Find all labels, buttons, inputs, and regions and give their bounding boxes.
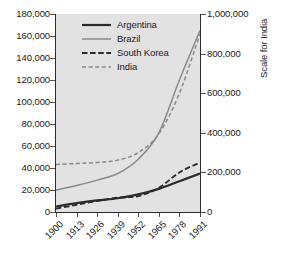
x-axis-tick	[118, 213, 119, 217]
y-axis-right-title: Scale for India	[258, 19, 269, 78]
y-axis-left-tick	[50, 14, 55, 15]
x-axis-tick	[179, 213, 180, 217]
legend-line-swatch	[82, 20, 111, 30]
y-axis-left-tick	[50, 212, 55, 213]
x-axis-tick	[97, 213, 98, 217]
x-axis-tick	[200, 213, 201, 217]
y-axis-left-tick	[50, 102, 55, 103]
y-axis-left-tick-label: 60,000	[0, 141, 50, 151]
y-axis-right-title-text: Scale for India	[258, 19, 269, 78]
y-axis-left-tick-label: 80,000	[0, 119, 50, 129]
y-axis-right-tick	[201, 93, 206, 94]
legend-item-south-korea: South Korea	[82, 46, 169, 60]
legend-item-label: India	[117, 62, 137, 72]
y-axis-left-tick-label: 0	[0, 207, 50, 217]
y-axis-right-tick-label: 0	[207, 207, 212, 217]
x-axis-tick	[138, 213, 139, 217]
y-axis-right-tick-label: 600,000	[207, 88, 241, 98]
y-axis-left-tick-label: 160,000	[0, 31, 50, 41]
y-axis-right-tick	[201, 133, 206, 134]
y-axis-right-tick	[201, 212, 206, 213]
y-axis-left-tick	[50, 146, 55, 147]
y-axis-right-line	[200, 14, 201, 213]
y-axis-left-tick	[50, 190, 55, 191]
legend-line-swatch	[82, 48, 111, 58]
series-line-argentina	[56, 174, 200, 207]
legend-item-india: India	[82, 60, 169, 74]
y-axis-left-tick	[50, 58, 55, 59]
legend-item-label: Brazil	[117, 34, 140, 44]
y-axis-left-tick	[50, 80, 55, 81]
y-axis-left-tick-label: 100,000	[0, 97, 50, 107]
y-axis-left-tick	[50, 124, 55, 125]
y-axis-right-tick-label: 400,000	[207, 128, 241, 138]
y-axis-left-tick	[50, 168, 55, 169]
x-axis-tick-label: 1900	[38, 219, 65, 246]
legend-line-swatch	[82, 34, 111, 44]
legend-item-label: Argentina	[117, 20, 157, 30]
x-axis-tick	[77, 213, 78, 217]
x-axis-tick	[56, 213, 57, 217]
y-axis-left-tick	[50, 36, 55, 37]
y-axis-right-tick-label: 800,000	[207, 49, 241, 59]
y-axis-left-tick-label: 40,000	[0, 163, 50, 173]
y-axis-left-tick-label: 120,000	[0, 75, 50, 85]
y-axis-left-tick-label: 20,000	[0, 185, 50, 195]
y-axis-right-tick	[201, 14, 206, 15]
legend-item-brazil: Brazil	[82, 32, 169, 46]
legend-line-swatch	[82, 62, 111, 72]
chart-container: 020,00040,00060,00080,000100,000120,0001…	[0, 0, 292, 257]
y-axis-right-tick	[201, 54, 206, 55]
legend-item-argentina: Argentina	[82, 18, 169, 32]
y-axis-right-tick-label: 200,000	[207, 167, 241, 177]
y-axis-right-tick	[201, 172, 206, 173]
x-axis-tick-label: 1991	[182, 219, 209, 246]
chart-legend: ArgentinaBrazilSouth KoreaIndia	[82, 18, 169, 74]
x-axis-tick	[159, 213, 160, 217]
y-axis-left-tick-label: 180,000	[0, 9, 50, 19]
legend-item-label: South Korea	[117, 48, 169, 58]
y-axis-right-tick-label: 1,000,000	[207, 9, 248, 19]
y-axis-left-tick-label: 140,000	[0, 53, 50, 63]
y-axis-left-line	[55, 14, 56, 213]
